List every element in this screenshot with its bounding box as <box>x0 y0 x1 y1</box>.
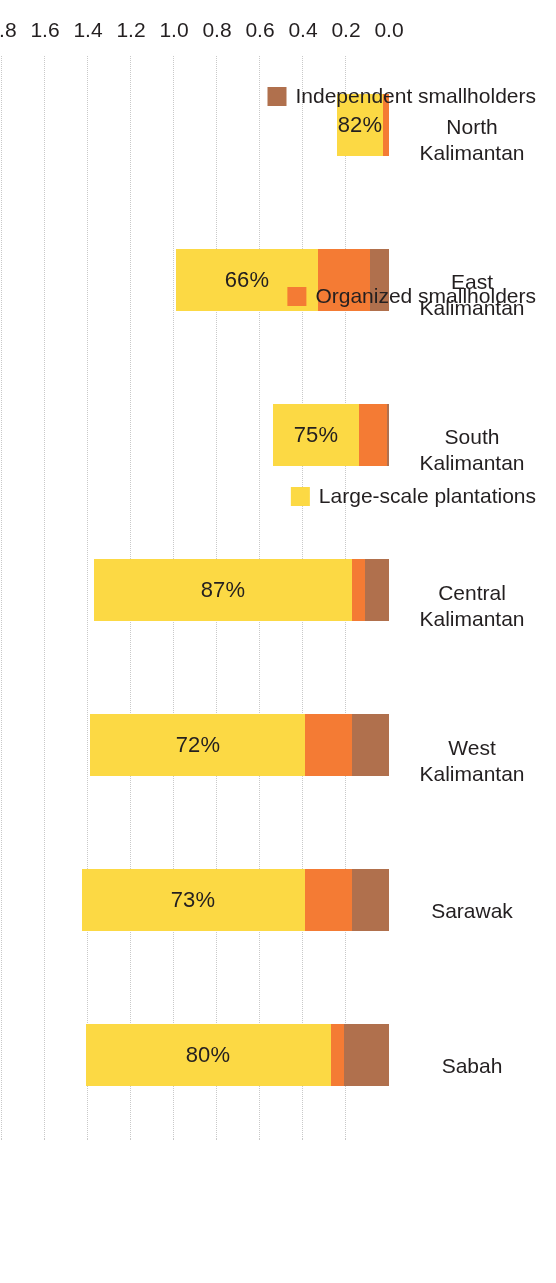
category-label: Sarawak <box>397 897 547 923</box>
category-label: NorthKalimantan <box>397 115 547 168</box>
legend-item[interactable]: Independent smallholders <box>268 84 537 108</box>
bar-segment: 75% <box>273 404 359 466</box>
category-label-line1: Sabah <box>442 1053 503 1076</box>
legend-swatch-icon <box>291 487 310 506</box>
bar-row: 80% <box>86 1024 389 1086</box>
bar-segment <box>359 404 387 466</box>
category-label-line1: West <box>448 735 495 758</box>
category-label-line2: Kalimantan <box>397 606 547 632</box>
bar-segment: 87% <box>94 559 352 621</box>
bar-segment: 72% <box>90 714 305 776</box>
bar-segment <box>305 714 352 776</box>
legend-label: Independent smallholders <box>296 84 537 108</box>
category-label-line1: South <box>445 426 500 449</box>
bar-value-label: 73% <box>171 887 216 913</box>
bar-segment <box>365 559 389 621</box>
category-label-line1: Central <box>438 581 506 604</box>
legend-item[interactable]: Large-scale plantations <box>291 484 536 508</box>
bar-segment: 80% <box>86 1024 331 1086</box>
legend-item[interactable]: Organized smallholders <box>287 284 536 308</box>
bar-row: 73% <box>82 869 389 931</box>
value-axis-title: million ha <box>250 0 339 2</box>
bar-value-label: 87% <box>201 577 246 603</box>
bar-value-label: 66% <box>225 267 270 293</box>
bar-segment <box>352 714 389 776</box>
chart-canvas: 80%73%72%87%75%66%82% 0.00.20.40.60.81.0… <box>0 0 556 1283</box>
bar-value-label: 75% <box>294 422 339 448</box>
bar-segment: 73% <box>82 869 306 931</box>
gridline <box>43 56 45 1140</box>
gridline <box>0 56 2 1140</box>
category-label: WestKalimantan <box>397 734 547 787</box>
plot-area: 80%73%72%87%75%66%82% <box>2 56 389 1140</box>
bar-segment <box>305 869 352 931</box>
category-label-line2: Kalimantan <box>397 141 547 167</box>
legend-swatch-icon <box>287 287 306 306</box>
legend-swatch-icon <box>268 87 287 106</box>
category-label: Sabah <box>397 1052 547 1078</box>
legend-label: Organized smallholders <box>315 284 536 308</box>
gridline <box>86 56 88 1140</box>
bar-row: 72% <box>90 714 389 776</box>
legend-label: Large-scale plantations <box>319 484 536 508</box>
category-label-line1: North <box>446 116 497 139</box>
bar-value-label: 82% <box>338 112 383 138</box>
value-axis-tick-label: 1.8 <box>0 18 32 42</box>
bar-row: 87% <box>94 559 389 621</box>
bar-segment <box>344 1024 389 1086</box>
bar-value-label: 80% <box>186 1042 231 1068</box>
chart-stage-rotated: 80%73%72%87%75%66%82% 0.00.20.40.60.81.0… <box>0 0 556 1283</box>
bar-value-label: 72% <box>175 732 220 758</box>
category-label-line2: Kalimantan <box>397 761 547 787</box>
bar-segment <box>331 1024 344 1086</box>
bar-segment <box>352 559 365 621</box>
category-label: CentralKalimantan <box>397 580 547 633</box>
category-label-line1: Sarawak <box>431 898 513 921</box>
bar-segment <box>387 404 389 466</box>
category-label-line2: Kalimantan <box>397 451 547 477</box>
bar-segment <box>352 869 389 931</box>
category-label: SouthKalimantan <box>397 425 547 478</box>
bar-row: 75% <box>273 404 389 466</box>
